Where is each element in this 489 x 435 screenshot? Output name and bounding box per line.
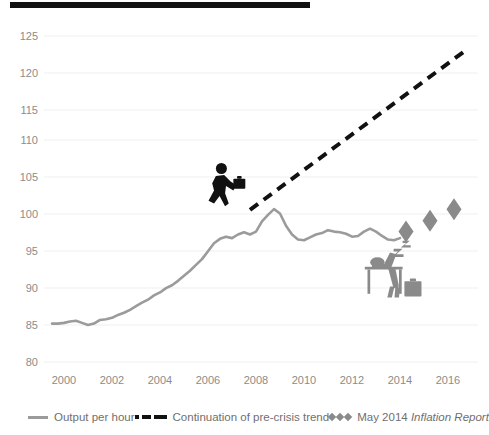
x-tick-label: 2004: [148, 374, 172, 386]
chart-canvas: 125 120 115 110 105 100 95 90 85 80 2000…: [0, 0, 489, 404]
x-tick-label: 2012: [340, 374, 364, 386]
y-axis-ticks: 125 120 115 110 105 100 95 90 85 80: [20, 30, 38, 368]
legend-label-plain: May 2014: [357, 411, 411, 423]
y-tick-label: 125: [20, 30, 38, 42]
chart-legend: Output per hour Continuation of pre-cris…: [0, 404, 489, 430]
y-tick-label: 120: [20, 67, 38, 79]
y-tick-label: 115: [20, 104, 38, 116]
y-tick-label: 105: [20, 171, 38, 183]
y-tick-label: 110: [20, 134, 38, 146]
y-tick-label: 100: [20, 208, 38, 220]
series-markers-may-2014-inflation-report: [399, 198, 462, 242]
x-tick-label: 2010: [292, 374, 316, 386]
y-tick-label: 80: [26, 356, 38, 368]
legend-label-pre-crisis-trend: Continuation of pre-crisis trend: [173, 411, 330, 423]
gridlines: [44, 36, 478, 362]
series-line-output-per-hour: [52, 209, 400, 325]
y-tick-label: 95: [26, 245, 38, 257]
y-tick-label: 85: [26, 319, 38, 331]
productivity-puzzle-chart: 125 120 115 110 105 100 95 90 85 80 2000…: [0, 0, 489, 435]
x-tick-label: 2002: [100, 374, 124, 386]
x-tick-label: 2014: [388, 374, 412, 386]
x-axis-ticks: 2000 2002 2004 2006 2008 2010 2012 2014 …: [52, 374, 460, 386]
y-tick-label: 90: [26, 282, 38, 294]
legend-label-may-2014-inflation-report: May 2014 Inflation Report: [357, 411, 489, 423]
diamond-marker: [423, 210, 438, 232]
walking-businessman-icon: [209, 163, 246, 206]
legend-item-may-2014-inflation-report: May 2014 Inflation Report: [329, 411, 489, 423]
legend-item-pre-crisis-trend: Continuation of pre-crisis trend: [135, 411, 330, 423]
legend-label-italic: Inflation Report: [411, 411, 489, 423]
x-tick-label: 2008: [244, 374, 268, 386]
dashed-line-swatch-icon: [135, 415, 167, 419]
diamond-marker: [399, 221, 414, 243]
diamond-swatch-icon: [329, 414, 351, 420]
x-tick-label: 2016: [436, 374, 460, 386]
legend-label-output-per-hour: Output per hour: [54, 411, 135, 423]
diamond-marker: [447, 198, 462, 220]
sleeping-worker-at-desk-icon: [365, 241, 422, 298]
x-tick-label: 2006: [196, 374, 220, 386]
legend-item-output-per-hour: Output per hour: [28, 411, 135, 423]
x-tick-label: 2000: [52, 374, 76, 386]
solid-line-swatch-icon: [28, 416, 48, 419]
